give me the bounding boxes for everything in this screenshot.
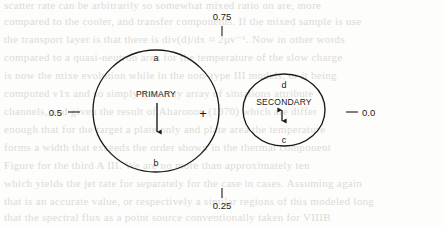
primary-beam-circle: a b PRIMARY + [93, 50, 219, 172]
diagram-svg: 0.75 0.5 0.0 0.25 a b PRIMARY + [0, 0, 443, 227]
tick-left-label: 0.5 [49, 107, 62, 118]
tick-left: 0.5 [49, 107, 80, 118]
primary-bottom-label: b [153, 158, 158, 168]
tick-right-label: 0.0 [362, 107, 375, 118]
tick-top: 0.75 [213, 11, 232, 36]
tick-bottom: 0.25 [213, 188, 232, 211]
secondary-beam-circle: d c SECONDARY [243, 74, 325, 146]
primary-title-label: PRIMARY [136, 89, 176, 99]
secondary-top-label: d [281, 80, 286, 90]
primary-top-label: a [153, 53, 158, 63]
figure-canvas: scatter rate can be arbitrarily so somew… [0, 0, 443, 227]
tick-right: 0.0 [346, 107, 375, 118]
tick-bottom-label: 0.25 [213, 200, 232, 211]
secondary-title-label: SECONDARY [256, 97, 312, 107]
primary-center-cross-marker: + [199, 106, 207, 121]
tick-top-label: 0.75 [213, 11, 232, 22]
secondary-bottom-label: c [282, 135, 287, 145]
